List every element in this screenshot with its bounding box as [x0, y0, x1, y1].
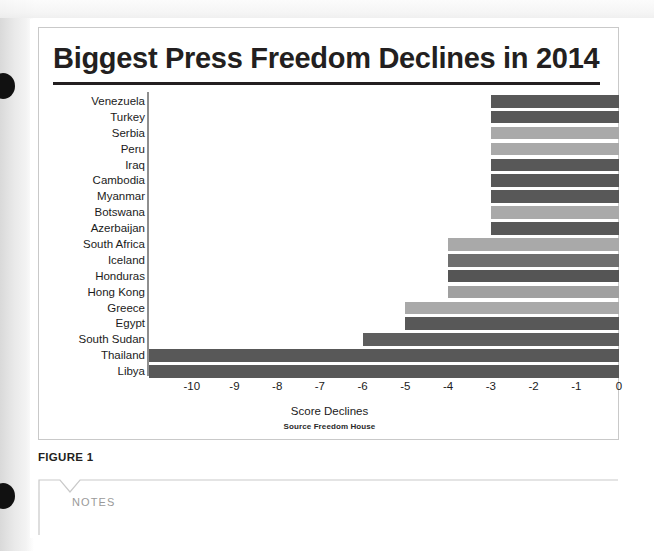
- category-axis-labels: VenezuelaTurkeySerbiaPeruIraqCambodiaMya…: [49, 94, 145, 380]
- bar-row: [149, 205, 619, 221]
- bar: [491, 222, 619, 235]
- category-label: Hong Kong: [49, 285, 145, 301]
- bar: [491, 143, 619, 156]
- x-tick-label: -5: [388, 380, 422, 392]
- category-label: Azerbaijan: [49, 221, 145, 237]
- bar: [491, 174, 619, 187]
- x-axis-ticks: -10-9-8-7-6-5-4-3-2-10: [39, 380, 620, 398]
- bar: [149, 349, 619, 362]
- bar-row: [149, 158, 619, 174]
- bar-row: [149, 110, 619, 126]
- bar: [491, 111, 619, 124]
- category-label: Peru: [49, 142, 145, 158]
- chart-panel: Biggest Press Freedom Declines in 2014 V…: [38, 27, 619, 440]
- bar-row: [149, 221, 619, 237]
- x-tick-label: -2: [517, 380, 551, 392]
- category-label: Cambodia: [49, 173, 145, 189]
- category-label: Venezuela: [49, 94, 145, 110]
- category-label: Egypt: [49, 316, 145, 332]
- bar-row: [149, 348, 619, 364]
- category-label: Myanmar: [49, 189, 145, 205]
- category-label: Serbia: [49, 126, 145, 142]
- x-tick-label: -4: [431, 380, 465, 392]
- bar-row: [149, 94, 619, 110]
- x-tick-label: 0: [602, 380, 636, 392]
- notes-outline-icon: [38, 474, 619, 536]
- category-label: South Sudan: [49, 332, 145, 348]
- x-axis-title: Score Declines: [39, 405, 620, 417]
- bar-row: [149, 269, 619, 285]
- bar: [363, 333, 619, 346]
- notes-label: NOTES: [72, 496, 115, 508]
- bar-row: [149, 173, 619, 189]
- category-label: Turkey: [49, 110, 145, 126]
- category-label: Iceland: [49, 253, 145, 269]
- bar: [405, 302, 619, 315]
- document-sheet: Biggest Press Freedom Declines in 2014 V…: [30, 19, 630, 538]
- category-label: Thailand: [49, 348, 145, 364]
- category-label: Libya: [49, 364, 145, 380]
- bar: [491, 206, 619, 219]
- bar-row: [149, 142, 619, 158]
- x-tick-label: -3: [474, 380, 508, 392]
- bar: [448, 238, 619, 251]
- bar-row: [149, 189, 619, 205]
- scanned-page: Biggest Press Freedom Declines in 2014 V…: [0, 0, 654, 551]
- bar-row: [149, 253, 619, 269]
- binder-hole-top: [0, 73, 15, 99]
- x-tick-label: -1: [559, 380, 593, 392]
- bar: [491, 127, 619, 140]
- bar: [448, 286, 619, 299]
- chart-title: Biggest Press Freedom Declines in 2014: [53, 40, 601, 76]
- notes-box: NOTES: [38, 474, 619, 536]
- x-tick-label: -10: [175, 380, 209, 392]
- bar-series: [149, 94, 619, 380]
- bar: [149, 365, 619, 378]
- bar-row: [149, 126, 619, 142]
- x-tick-label: -6: [346, 380, 380, 392]
- category-label: Iraq: [49, 158, 145, 174]
- bar-row: [149, 237, 619, 253]
- category-label: Greece: [49, 301, 145, 317]
- x-tick-label: -9: [217, 380, 251, 392]
- title-underline: [53, 82, 600, 85]
- bar-row: [149, 364, 619, 380]
- x-tick-label: -8: [260, 380, 294, 392]
- scan-artifact-strip: [0, 0, 654, 18]
- bar: [491, 159, 619, 172]
- binder-hole-bottom: [0, 483, 15, 509]
- category-label: Botswana: [49, 205, 145, 221]
- category-label: South Africa: [49, 237, 145, 253]
- bar: [448, 254, 619, 267]
- bar-row: [149, 332, 619, 348]
- bar: [448, 270, 619, 283]
- bar: [491, 95, 619, 108]
- x-tick-label: -7: [303, 380, 337, 392]
- plot-area: VenezuelaTurkeySerbiaPeruIraqCambodiaMya…: [39, 90, 620, 441]
- figure-caption: FIGURE 1: [38, 451, 93, 463]
- chart-source-note: Source Freedom House: [39, 422, 620, 431]
- bar: [405, 317, 619, 330]
- bar: [491, 190, 619, 203]
- bar-row: [149, 301, 619, 317]
- bar-row: [149, 285, 619, 301]
- bar-row: [149, 316, 619, 332]
- category-label: Honduras: [49, 269, 145, 285]
